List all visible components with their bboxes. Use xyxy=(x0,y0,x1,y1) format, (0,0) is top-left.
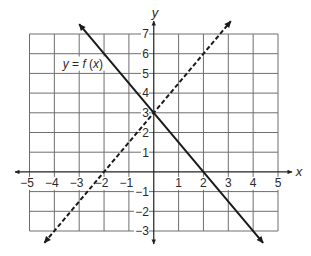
y-tick-label: −2 xyxy=(135,205,149,219)
y-tick-label: 5 xyxy=(142,67,149,81)
x-tick-label: 5 xyxy=(275,176,282,190)
x-tick-label: 3 xyxy=(225,176,232,190)
y-tick-label: 7 xyxy=(142,27,149,41)
y-tick-label: 1 xyxy=(142,146,149,160)
x-tick-label: −2 xyxy=(95,176,109,190)
x-tick-label: 2 xyxy=(200,176,207,190)
x-tick-label: −3 xyxy=(70,176,84,190)
coordinate-plane: −5−4−3−2−112345 −3−2−11234567 y = f (x) … xyxy=(0,0,311,256)
x-tick-label: 1 xyxy=(175,176,182,190)
y-tick-label: 4 xyxy=(142,86,149,100)
plot-background xyxy=(0,0,311,256)
y-tick-label: 6 xyxy=(142,47,149,61)
x-tick-label: −1 xyxy=(120,176,134,190)
annotations: y = f (x) xyxy=(60,57,105,71)
y-tick-label: −1 xyxy=(135,185,149,199)
x-tick-label: −4 xyxy=(45,176,59,190)
function-label: y = f (x) xyxy=(62,57,103,71)
x-tick-label: −5 xyxy=(20,176,34,190)
x-tick-label: 4 xyxy=(250,176,257,190)
x-axis-label: x xyxy=(295,164,303,179)
y-tick-label: −3 xyxy=(135,224,149,238)
y-tick-label: 2 xyxy=(142,126,149,140)
